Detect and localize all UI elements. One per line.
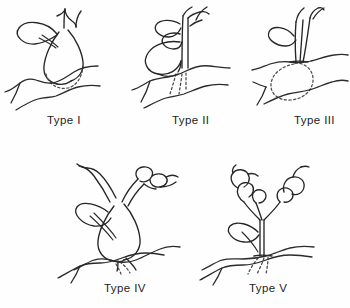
type-5-bulbil-right-low bbox=[277, 188, 293, 202]
type-4-knob-tip-a bbox=[166, 176, 178, 178]
type-5-branch-right bbox=[264, 202, 280, 220]
type-4-knob-b bbox=[150, 174, 167, 187]
type-3-buried-tuber bbox=[271, 63, 313, 100]
type-5-bulbil-right-tip-b bbox=[301, 166, 309, 167]
caption-type-1: Type I bbox=[47, 114, 81, 126]
type-5-bulbil-mid bbox=[252, 190, 266, 203]
panel-type-1 bbox=[2, 4, 122, 112]
type-4-arm-right-stem2 bbox=[122, 179, 138, 202]
type-2-ring-outer bbox=[145, 41, 181, 74]
type-5-basal-leaf bbox=[228, 223, 259, 242]
type-5-branch-left bbox=[244, 202, 260, 220]
type-2-buried-root-b bbox=[179, 74, 182, 94]
type-3-ground-line-lower bbox=[264, 80, 348, 104]
type-3-leaf-loop bbox=[268, 27, 296, 46]
type-3-ground-spur-left bbox=[253, 82, 266, 87]
type-4-leaf-lobe bbox=[76, 203, 111, 226]
type-4-ground-line-lower bbox=[58, 253, 164, 278]
caption-type-4: Type IV bbox=[104, 282, 146, 294]
type-3-stem-a bbox=[295, 22, 296, 62]
type-5-bulbil-right-tip bbox=[293, 167, 301, 177]
panel-type-2 bbox=[128, 4, 248, 112]
type-1-bulb-right bbox=[68, 30, 83, 81]
type-2-ground-line-upper bbox=[132, 66, 230, 90]
type-2-shoot-branch bbox=[190, 20, 202, 26]
type-1-ground-line-lower bbox=[16, 85, 100, 110]
caption-type-5: Type V bbox=[249, 282, 287, 294]
figure-panel-diagram: Type I bbox=[0, 0, 350, 308]
type-4-lobe-midrib-b bbox=[94, 213, 116, 238]
type-4-knob-tip-b bbox=[160, 182, 176, 187]
type-2-drawing bbox=[128, 4, 248, 112]
type-1-drawing bbox=[2, 4, 122, 112]
type-4-arm-upleft-a bbox=[83, 167, 110, 202]
type-3-stem-b bbox=[300, 20, 303, 62]
type-3-drawing bbox=[250, 4, 350, 112]
type-5-bulbil-right-high bbox=[283, 177, 304, 195]
type-5-bulbil-left-link bbox=[248, 174, 258, 176]
caption-type-3: Type III bbox=[294, 114, 335, 126]
type-2-shoot-fork-left bbox=[183, 7, 192, 16]
type-3-ground-spur-down bbox=[257, 87, 266, 105]
type-5-ground-line-lower bbox=[200, 255, 312, 280]
panel-type-3 bbox=[250, 4, 350, 112]
type-1-shoot-fork-right bbox=[65, 9, 76, 27]
type-3-stem-c bbox=[303, 18, 310, 62]
type-1-shoot-tip-right bbox=[76, 11, 81, 27]
type-1-ground-line-upper bbox=[5, 66, 98, 92]
caption-type-2: Type II bbox=[172, 114, 209, 126]
type-2-shoot-tip bbox=[196, 7, 207, 20]
